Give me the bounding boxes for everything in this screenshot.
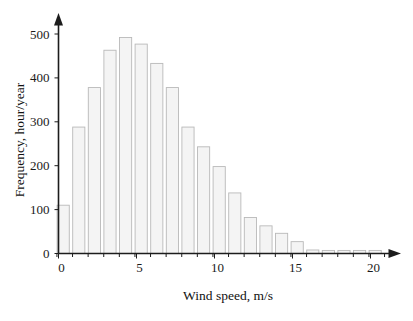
- y-tick-label: 400: [30, 70, 50, 85]
- bar: [88, 88, 100, 254]
- y-tick-label: 300: [30, 114, 50, 129]
- x-tick-label: 10: [211, 260, 224, 275]
- bar: [229, 193, 241, 254]
- y-tick-label: 0: [43, 246, 50, 261]
- bar: [182, 127, 194, 253]
- x-axis-ticks: 05101520: [57, 254, 385, 275]
- bar: [104, 50, 116, 253]
- x-tick-label: 20: [367, 260, 380, 275]
- bar: [260, 226, 272, 254]
- wind-speed-frequency-chart: 0100200300400500 05101520 Wind speed, m/…: [0, 0, 413, 321]
- bar-series: [57, 38, 381, 254]
- bar: [120, 38, 132, 254]
- y-axis-ticks: 0100200300400500: [30, 27, 59, 262]
- bar: [135, 44, 147, 253]
- y-tick-label: 500: [30, 27, 50, 42]
- bar: [73, 127, 85, 253]
- bar: [198, 147, 210, 254]
- chart-canvas: 0100200300400500 05101520 Wind speed, m/…: [0, 0, 413, 321]
- y-tick-label: 100: [30, 202, 50, 217]
- bar: [166, 88, 178, 254]
- y-axis-arrow-icon: [54, 13, 63, 26]
- x-axis-title: Wind speed, m/s: [183, 288, 273, 303]
- y-tick-label: 200: [30, 158, 50, 173]
- y-axis-title: Frequency, hour/year: [12, 82, 27, 197]
- bar: [244, 218, 256, 254]
- bar: [291, 242, 303, 254]
- bar: [151, 63, 163, 253]
- bar: [276, 233, 288, 253]
- bar: [213, 167, 225, 254]
- x-tick-label: 0: [58, 260, 65, 275]
- x-tick-label: 5: [136, 260, 143, 275]
- x-tick-label: 15: [289, 260, 302, 275]
- x-axis-arrow-icon: [389, 249, 402, 258]
